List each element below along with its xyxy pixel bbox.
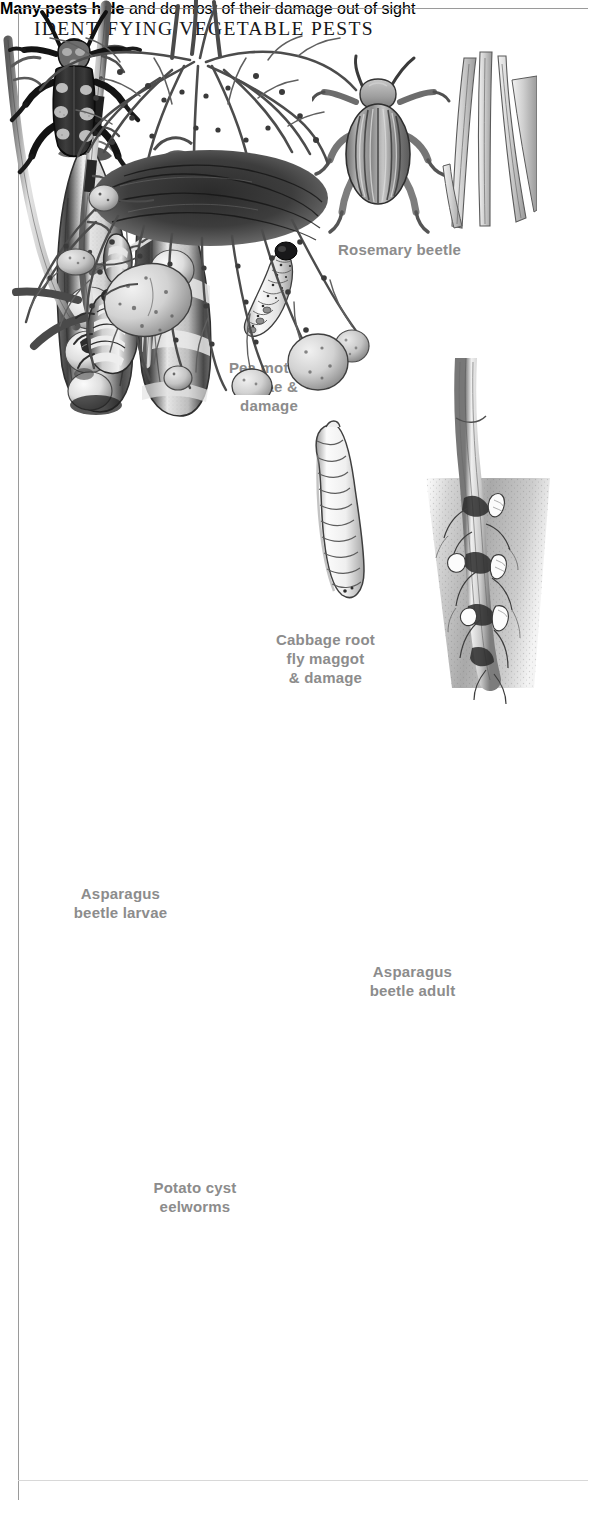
figure-cabbage-root-damage	[408, 358, 558, 708]
plate-bottom-rule	[18, 1480, 588, 1481]
label-asparagus-adult-line2: beetle adult	[330, 981, 495, 1000]
label-asparagus-larvae-line1: Asparagus	[28, 884, 213, 903]
label-asparagus-beetle-adult: Asparagus beetle adult	[330, 962, 495, 1000]
label-cabbage-root-fly: Cabbage root fly maggot & damage	[238, 630, 413, 687]
label-potato-cyst-eelworms: Potato cyst eelworms	[120, 1178, 270, 1216]
label-asparagus-adult-line1: Asparagus	[330, 962, 495, 981]
label-asparagus-larvae-line2: beetle larvae	[28, 903, 213, 922]
label-cabbage-line2: fly maggot	[238, 649, 413, 668]
label-potato-line1: Potato cyst	[120, 1178, 270, 1197]
label-pea-moth-line3: damage	[178, 396, 298, 415]
vegetable-pests-plate: IDENTIFYING VEGETABLE PESTS	[0, 0, 603, 1532]
figure-cabbage-root-fly-maggot	[298, 415, 388, 605]
label-asparagus-beetle-larvae: Asparagus beetle larvae	[28, 884, 213, 922]
label-cabbage-line1: Cabbage root	[238, 630, 413, 649]
label-cabbage-line3: & damage	[238, 668, 413, 687]
label-potato-line2: eelworms	[120, 1197, 270, 1216]
figure-potato-cyst-eelworms	[0, 0, 400, 395]
